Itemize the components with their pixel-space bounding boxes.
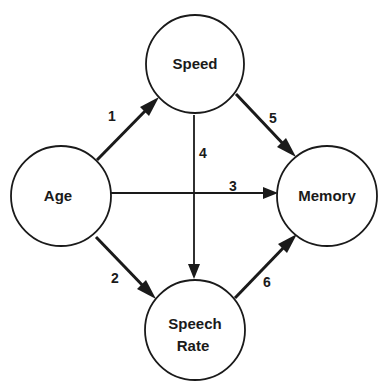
edge-6: 6: [235, 234, 297, 298]
node-speed: Speed: [146, 15, 244, 113]
node-label-speech: Speech: [168, 315, 221, 332]
node-speech-rate: Speech Rate: [145, 280, 245, 380]
edge-label-4: 4: [199, 145, 207, 161]
node-label-memory: Memory: [298, 187, 356, 204]
node-memory: Memory: [277, 146, 377, 246]
edge-5: 5: [236, 94, 296, 157]
edge-label-1: 1: [108, 108, 116, 124]
arrowhead-icon: [263, 187, 278, 199]
edge-4: 4: [188, 115, 207, 279]
edge-label-6: 6: [263, 274, 271, 290]
arrowhead-icon: [188, 264, 200, 279]
node-label-rate: Rate: [177, 337, 210, 354]
edge-label-3: 3: [229, 178, 237, 194]
node-age: Age: [11, 146, 111, 246]
node-label-speed: Speed: [172, 55, 217, 72]
edge-label-2: 2: [111, 270, 119, 286]
node-label-age: Age: [44, 187, 72, 204]
edge-label-5: 5: [269, 110, 277, 126]
path-diagram: 1 2 3 4 5 6 Speed Age Memory: [0, 0, 384, 392]
edge-2: 2: [96, 237, 156, 299]
edge-1: 1: [97, 97, 159, 160]
